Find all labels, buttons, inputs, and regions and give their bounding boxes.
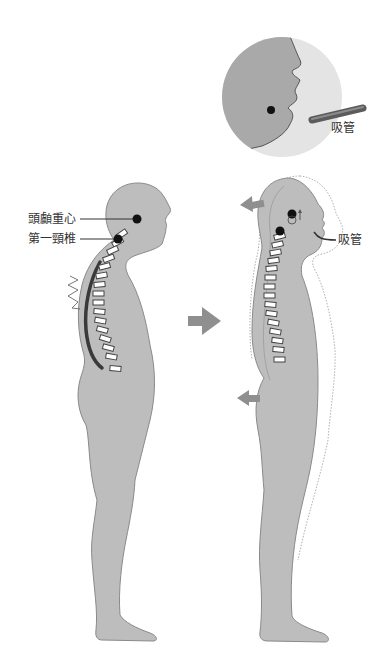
right-first-cervical-dot: [276, 227, 285, 236]
pain-squiggle-icon: [68, 276, 80, 309]
head-gravity-dot: [133, 215, 142, 224]
inset-closeup: [200, 30, 363, 160]
first-cervical-dot: [114, 235, 123, 244]
transition-arrow-icon: [188, 307, 221, 335]
inset-mouth-dot: [267, 106, 275, 114]
label-head-gravity: 頭顱重心: [28, 212, 76, 226]
posture-diagram: 頭顱重心 第一頸椎 吸管 吸管: [0, 0, 390, 671]
diagram-canvas: [0, 0, 390, 671]
label-first-cervical: 第一頸椎: [28, 232, 76, 246]
left-body-silhouette: [78, 183, 171, 641]
right-body-silhouette: [252, 178, 328, 642]
right-figure: [237, 176, 343, 642]
left-figure: [68, 183, 171, 641]
label-straw-inset: 吸管: [331, 121, 355, 135]
label-straw-right: 吸管: [338, 233, 362, 247]
